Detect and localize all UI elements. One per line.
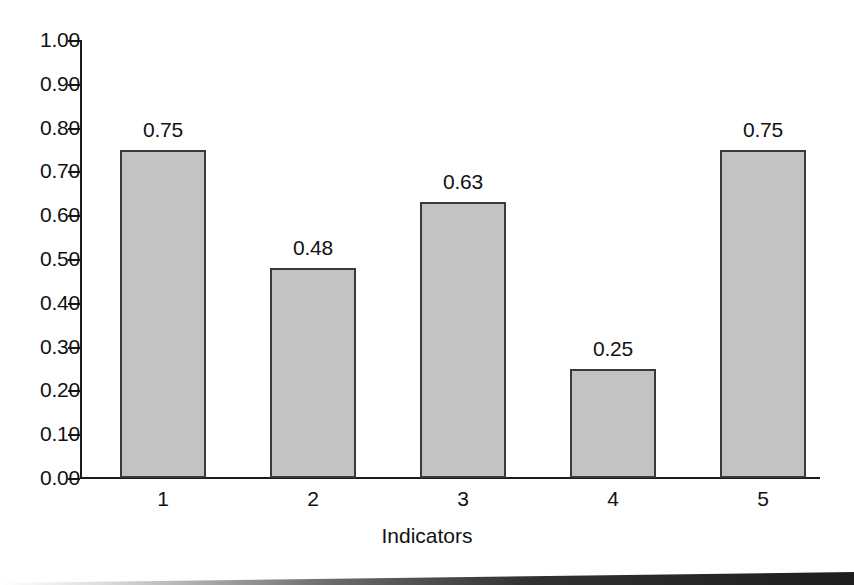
y-tick-label: 1.00 — [18, 29, 80, 50]
bar — [570, 369, 656, 479]
bar — [420, 202, 506, 478]
y-tick-label: 0.80 — [18, 117, 80, 138]
y-tick-label: 0.00 — [18, 467, 80, 488]
bar-chart-figure: 1.000.900.800.700.600.500.400.300.200.10… — [0, 0, 854, 585]
scan-edge-artifact — [0, 571, 854, 585]
bar-value-label: 0.48 — [250, 237, 376, 258]
x-axis-title: Indicators — [0, 525, 854, 546]
y-tick-label: 0.60 — [18, 204, 80, 225]
bar-value-label: 0.75 — [100, 119, 226, 140]
y-tick-label: 0.90 — [18, 73, 80, 94]
y-tick-label: 0.50 — [18, 248, 80, 269]
y-tick-label: 0.30 — [18, 336, 80, 357]
bar-value-label: 0.63 — [400, 171, 526, 192]
bar — [720, 150, 806, 479]
x-tick-label: 3 — [400, 488, 526, 509]
x-tick-label: 2 — [250, 488, 376, 509]
y-tick-label: 0.70 — [18, 160, 80, 181]
bar — [270, 268, 356, 478]
y-tick-label: 0.40 — [18, 292, 80, 313]
x-tick-label: 1 — [100, 488, 226, 509]
bar — [120, 150, 206, 479]
x-tick-label: 4 — [550, 488, 676, 509]
y-tick-label: 0.20 — [18, 379, 80, 400]
y-tick-label: 0.10 — [18, 423, 80, 444]
bar-value-label: 0.75 — [700, 119, 826, 140]
bar-value-label: 0.25 — [550, 338, 676, 359]
x-tick-label: 5 — [700, 488, 826, 509]
